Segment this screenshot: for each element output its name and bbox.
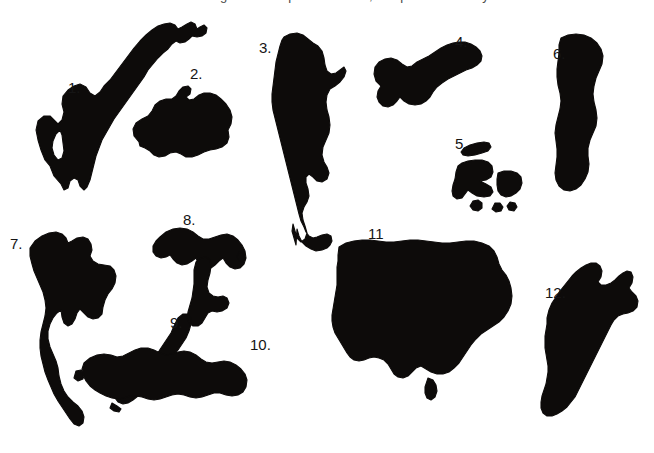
- silhouette-svg: [0, 0, 654, 453]
- shape-number-label-7: 7.: [10, 236, 23, 251]
- shape-number-label-11: 11: [368, 226, 384, 241]
- shape-11-united-states: [332, 240, 512, 400]
- shape-number-label-8: 8.: [183, 212, 196, 227]
- shape-7-thailand: [30, 232, 116, 426]
- shape-number-label-4: 4.: [455, 34, 468, 49]
- shape-10-turkey: [74, 348, 247, 400]
- figure-container: Figure 1. Map silhouettes, shapes to ide…: [0, 0, 654, 453]
- shape-3-south-america: [272, 33, 346, 251]
- shape-5-japan-fragments: [452, 142, 522, 212]
- shape-number-label-9: 9.: [170, 315, 183, 330]
- shape-number-label-10: 10.: [250, 337, 271, 352]
- shape-number-label-2: 2.: [190, 66, 203, 81]
- shape-number-label-6: 6.: [553, 46, 566, 61]
- shape-number-label-5: 5.: [455, 136, 468, 151]
- shape-4-indochina-peninsula: [374, 42, 482, 107]
- silhouette-shape-group: [30, 22, 638, 426]
- shape-2-iceland: [133, 86, 232, 157]
- shape-number-label-12: 12.: [545, 285, 566, 300]
- shape-number-label-3: 3.: [259, 40, 272, 55]
- silhouette-layer: [0, 0, 654, 453]
- shape-number-label-1: 1.: [68, 80, 81, 95]
